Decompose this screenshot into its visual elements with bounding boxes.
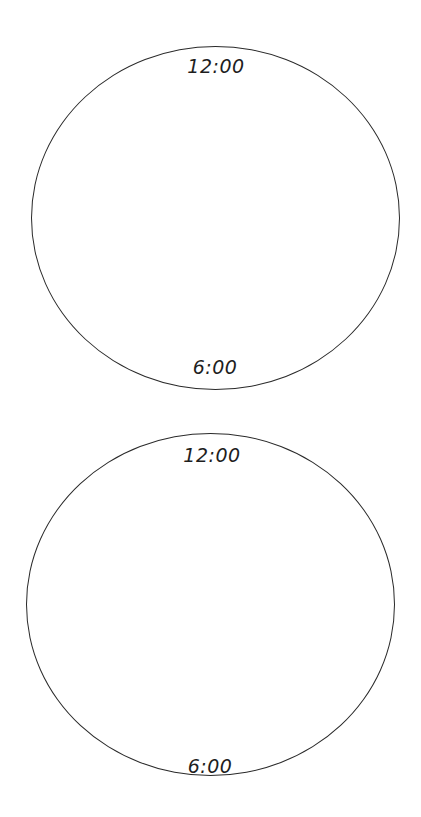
clock-2-bottom-label: 6:00 [188,757,233,776]
clock-1-bottom-label: 6:00 [193,358,238,377]
clock-face-1 [31,46,400,390]
clock-2-top-label: 12:00 [183,446,240,465]
clock-face-2 [26,433,395,776]
clock-1-top-label: 12:00 [187,57,244,76]
